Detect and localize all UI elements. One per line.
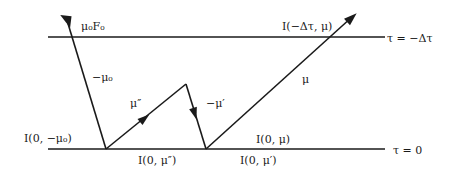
mu-double-prime-label: μ″ — [130, 98, 141, 109]
top-exit-intensity-label: I(−Δτ, μ) — [282, 21, 332, 32]
mu-double-prime-intensity-label: I(0, μ″) — [138, 155, 176, 166]
minus-mu-prime-arrowhead-icon — [189, 107, 200, 121]
radiative-transfer-diagram — [0, 0, 457, 183]
top-boundary-label: τ = −Δτ — [387, 33, 433, 44]
mu-intensity-label: I(0, μ) — [256, 134, 290, 145]
incident-arrowhead-icon — [60, 13, 73, 28]
incident-ray-label: −μ₀ — [92, 72, 113, 83]
incident-bottom-intensity-label: I(0, −μ₀) — [24, 133, 72, 144]
minus-mu-prime-label: −μ′ — [206, 98, 225, 109]
emergent-mu-label: μ — [302, 74, 309, 85]
mu-prime-intensity-label: I(0, μ′) — [240, 155, 277, 166]
bottom-boundary-label: τ = 0 — [393, 145, 422, 156]
flux-label: μ₀F₀ — [81, 21, 105, 32]
